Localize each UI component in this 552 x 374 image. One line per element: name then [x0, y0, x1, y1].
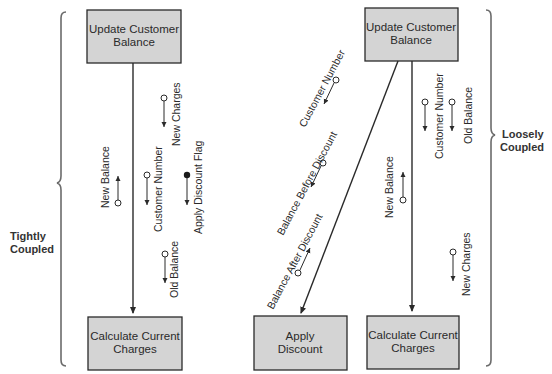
svg-text:New Balance: New Balance — [383, 156, 395, 218]
svg-text:New Charges: New Charges — [170, 82, 182, 146]
svg-text:Balance: Balance — [390, 34, 432, 46]
couple-new-balance-left: New Balance — [99, 146, 121, 208]
data-couple-icon — [161, 95, 167, 101]
couple-customer-number-diag: Customer Number — [296, 47, 347, 129]
svg-text:Update Customer: Update Customer — [366, 21, 456, 33]
module-calculate-current-charges-left: Calculate Current Charges — [88, 317, 182, 370]
coupling-diagram: Tightly Coupled Update Customer Balance … — [0, 0, 552, 374]
svg-text:Calculate Current: Calculate Current — [90, 330, 180, 342]
svg-text:Customer Number: Customer Number — [152, 146, 164, 232]
couple-new-balance-right: New Balance — [383, 156, 406, 218]
svg-text:Apply: Apply — [286, 330, 315, 342]
loosely-coupled-section: Update Customer Balance Apply Discount C… — [254, 8, 544, 370]
couple-customer-number-left: Customer Number — [144, 146, 164, 232]
tightly-label-line2: Coupled — [10, 243, 54, 255]
data-couple-icon — [144, 172, 150, 178]
svg-text:Discount: Discount — [278, 343, 324, 355]
loosely-label-line1: Loosely — [502, 128, 544, 140]
svg-text:Old Balance: Old Balance — [462, 87, 474, 144]
svg-text:New Balance: New Balance — [99, 146, 111, 208]
svg-text:Balance Before Discount: Balance Before Discount — [274, 129, 339, 237]
data-couple-icon — [449, 99, 455, 105]
svg-text:Old Balance: Old Balance — [168, 241, 180, 298]
couple-old-balance-left: Old Balance — [162, 241, 180, 298]
data-couple-icon — [400, 197, 406, 203]
couple-balance-after-discount: Balance After Discount — [264, 211, 325, 310]
loosely-label-line2: Coupled — [500, 141, 544, 153]
data-couple-icon — [422, 99, 428, 105]
data-couple-icon — [450, 249, 456, 255]
couple-apply-discount-flag-left: Apply Discount Flag — [184, 140, 204, 234]
left-brace — [57, 12, 66, 366]
couple-customer-number-right: Customer Number — [422, 73, 445, 159]
couple-new-charges-left: New Charges — [161, 82, 182, 146]
module-calculate-current-charges-right: Calculate Current Charges — [367, 316, 459, 369]
svg-text:Calculate Current: Calculate Current — [368, 329, 458, 341]
svg-text:Balance: Balance — [113, 36, 155, 48]
svg-text:Customer Number: Customer Number — [433, 73, 445, 159]
control-flag-icon — [184, 172, 190, 178]
module-update-customer-balance-right: Update Customer Balance — [365, 8, 458, 61]
couple-balance-before-discount: Balance Before Discount — [274, 129, 339, 237]
svg-text:Update Customer: Update Customer — [89, 23, 179, 35]
couple-new-charges-right: New Charges — [450, 232, 472, 296]
svg-text:Apply Discount Flag: Apply Discount Flag — [192, 140, 204, 234]
tightly-coupled-section: Tightly Coupled Update Customer Balance … — [10, 10, 204, 370]
svg-text:Balance After Discount: Balance After Discount — [264, 211, 325, 310]
data-couple-icon — [115, 200, 121, 206]
svg-text:New Charges: New Charges — [460, 232, 472, 296]
right-brace — [486, 10, 495, 366]
tightly-label-line1: Tightly — [10, 230, 47, 242]
module-apply-discount: Apply Discount — [254, 316, 347, 370]
svg-text:Charges: Charges — [391, 342, 435, 354]
svg-text:Charges: Charges — [113, 343, 157, 355]
couple-old-balance-right: Old Balance — [449, 87, 474, 144]
svg-text:Customer Number: Customer Number — [296, 47, 347, 129]
module-update-customer-balance-left: Update Customer Balance — [87, 10, 181, 63]
